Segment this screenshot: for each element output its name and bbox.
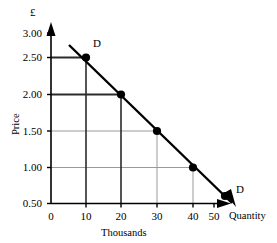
gridlines-light (51, 131, 193, 168)
x-tick-label-50: 50 (202, 211, 226, 222)
x-tick-label-0: 0 (39, 211, 63, 222)
y-axis (47, 22, 56, 204)
x-tick-label-10: 10 (74, 211, 98, 222)
y-tick-label-100: 1.00 (12, 162, 42, 173)
demand-curve-label-bottom: D (236, 184, 244, 195)
x-axis-label: Quantity (229, 211, 266, 222)
x-axis (51, 199, 231, 208)
demand-curve-line (69, 45, 236, 207)
x-tick-label-30: 30 (145, 211, 169, 222)
demand-curve-chart: £ Price 3.00 2.50 2.00 1.50 1.00 0.50 0 … (0, 0, 277, 243)
x-tick-label-20: 20 (109, 211, 133, 222)
y-tick-label-150: 1.50 (12, 126, 42, 137)
y-tick-label-050: 0.50 (12, 198, 42, 209)
demand-curve-label-top: D (93, 38, 101, 49)
x-axis-units-label: Thousands (101, 228, 147, 239)
y-tick-label-200: 2.00 (12, 89, 42, 100)
y-tick-label-300: 3.00 (12, 28, 42, 39)
y-tick-label-250: 2.50 (12, 52, 42, 63)
currency-symbol: £ (30, 7, 36, 18)
